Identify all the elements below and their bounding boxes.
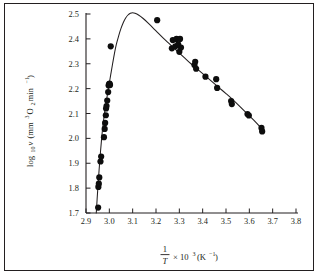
- x-axis-units-close: ): [215, 252, 218, 262]
- data-point: [246, 112, 252, 118]
- x-axis-numerator: 1: [163, 244, 167, 254]
- x-axis-denominator: T: [163, 256, 169, 266]
- x-tick-label: 2.9: [81, 217, 91, 226]
- y-tick-label: 1.8: [69, 184, 79, 193]
- data-point: [213, 76, 219, 82]
- data-point: [108, 43, 114, 49]
- data-point: [102, 120, 108, 126]
- data-point: [259, 128, 265, 134]
- y-tick-label: 2.3: [69, 60, 79, 69]
- data-point: [178, 44, 184, 50]
- y-axis-units-min: min: [25, 87, 35, 101]
- data-point: [214, 85, 220, 91]
- data-point: [96, 174, 102, 180]
- x-axis-ticks: 2.93.03.13.23.33.43.53.63.73.8: [81, 209, 301, 227]
- y-axis-ticks: 1.71.81.92.02.12.22.32.42.5: [69, 10, 91, 218]
- data-point: [193, 66, 199, 72]
- data-point: [102, 126, 108, 132]
- data-point: [177, 36, 183, 42]
- y-axis-units-close: ): [25, 75, 35, 78]
- data-point: [202, 74, 208, 80]
- data-point: [101, 134, 107, 140]
- arrhenius-plot: 2.93.03.13.23.33.43.53.63.73.8 1.71.81.9…: [0, 0, 319, 276]
- data-point: [103, 112, 109, 118]
- y-axis-log: log: [25, 155, 35, 167]
- x-tick-label: 3.5: [221, 217, 231, 226]
- y-axis-units-exp1: 3: [24, 115, 30, 118]
- x-tick-label: 3.7: [267, 217, 277, 226]
- x-tick-label: 3.6: [244, 217, 254, 226]
- plot-axes: [86, 13, 298, 213]
- y-axis-variable: ν: [25, 142, 35, 146]
- data-point: [104, 97, 110, 103]
- y-tick-label: 1.9: [69, 159, 79, 168]
- y-tick-label: 2.2: [69, 85, 79, 94]
- data-point: [229, 101, 235, 107]
- data-point: [107, 82, 113, 88]
- x-tick-label: 3.4: [197, 217, 208, 226]
- data-point: [105, 89, 111, 95]
- y-tick-label: 2.1: [69, 110, 79, 119]
- data-point: [96, 181, 102, 187]
- data-point: [192, 59, 198, 65]
- y-tick-label: 2.4: [69, 35, 80, 44]
- x-axis-exponent: 3: [193, 251, 196, 257]
- data-point: [154, 17, 160, 23]
- x-tick-label: 3.0: [104, 217, 114, 226]
- y-axis-units-sub: 2: [30, 102, 36, 105]
- x-axis-multiplier: × 10: [173, 252, 189, 262]
- x-tick-label: 3.8: [291, 217, 301, 226]
- y-tick-label: 2.5: [69, 10, 79, 19]
- y-axis-log-base: 10: [30, 146, 36, 152]
- x-axis-units: (K: [197, 252, 207, 262]
- y-axis-title: log 10 ν (mm 3 O 2 min −1 ): [24, 75, 36, 167]
- x-tick-label: 3.1: [127, 217, 137, 226]
- x-tick-label: 3.3: [174, 217, 184, 226]
- y-axis-units-o: O: [25, 108, 35, 114]
- data-point: [103, 103, 109, 109]
- y-tick-label: 2.0: [69, 134, 79, 143]
- data-point: [95, 204, 101, 210]
- x-tick-label: 3.2: [151, 217, 161, 226]
- x-axis-title: 1 T × 10 3 (K −1 ): [161, 244, 219, 266]
- y-axis-units-open: (mm: [25, 122, 35, 139]
- y-tick-label: 1.7: [69, 209, 79, 218]
- data-points: [95, 17, 265, 211]
- data-point: [98, 153, 104, 159]
